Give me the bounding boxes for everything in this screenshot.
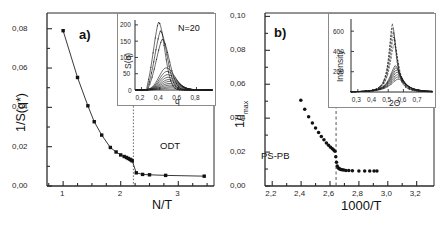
- panel-a-ytick-4: 0,08: [12, 25, 28, 33]
- panel-b-ytick-5: 0,10: [230, 12, 246, 20]
- panel-a-ytick-0: 0,00: [12, 182, 28, 190]
- panel-b-xtick-2: 2,6: [323, 190, 334, 198]
- panel-a-inset-xtick-3: 0,8: [190, 94, 199, 102]
- panel-b-inset-xtick-3: 0,6: [397, 96, 406, 104]
- panel-b-ytick-0: 0,00: [230, 182, 246, 190]
- panel-a-inset-label: N=20: [178, 23, 200, 33]
- panel-b-xtick-0: 2,2: [265, 190, 276, 198]
- panel-a-inset-ytick-0: 0: [128, 87, 132, 95]
- panel-b: 1/Imax 1000/T b) PS-PB 0,000,020,040,060…: [221, 0, 442, 228]
- panel-b-xtick-3: 2,8: [352, 190, 363, 198]
- panel-b-inset-ytick-1: 400: [333, 48, 344, 56]
- panel-a-inset-ytick-4: 200: [120, 21, 131, 29]
- panel-b-ytick-4: 0,08: [230, 46, 246, 54]
- panel-b-inset-xtick-0: 0,3: [352, 96, 361, 104]
- panel-a-ytick-2: 0,04: [12, 103, 28, 111]
- panel-a-inset-ytick-3: 150: [120, 38, 131, 46]
- figure-root: 1/S(q*) N/T a) ODT 0,000,020,040,060,08 …: [0, 0, 442, 228]
- panel-b-inset-xtick-1: 0,4: [367, 96, 376, 104]
- panel-b-ytick-2: 0,04: [230, 114, 246, 122]
- panel-a-xtick-2: 3: [175, 190, 179, 198]
- panel-b-ytick-3: 0,06: [230, 80, 246, 88]
- panel-b-inset: Intensity 2Θ 200400600 0,30,40,50,60,7: [328, 13, 436, 108]
- panel-b-inset-ytick-0: 200: [333, 68, 344, 76]
- panel-b-ytick-1: 0,02: [230, 148, 246, 156]
- panel-a-inset-xtick-2: 0,6: [172, 94, 181, 102]
- panel-b-inset-xtick-4: 0,7: [413, 96, 422, 104]
- panel-a-inset-xtick-1: 0,4: [154, 94, 163, 102]
- panel-a-inset: N=20 S(q) q 050100150200 0,20,40,60,8: [117, 13, 216, 106]
- panel-a-inset-ytick-2: 100: [120, 54, 131, 62]
- panel-a-ytick-1: 0,02: [12, 143, 28, 151]
- panel-b-xtick-5: 3,2: [410, 190, 421, 198]
- panel-a: 1/S(q*) N/T a) ODT 0,000,020,040,060,08 …: [0, 0, 221, 228]
- panel-b-xtick-1: 2,4: [294, 190, 305, 198]
- panel-a-xtick-1: 2: [118, 190, 122, 198]
- panel-a-inset-ytick-1: 50: [123, 70, 130, 78]
- panel-a-ytick-3: 0,06: [12, 64, 28, 72]
- panel-a-xtick-0: 1: [60, 190, 64, 198]
- panel-b-inset-xtick-2: 0,5: [382, 96, 391, 104]
- panel-b-xtick-4: 3,0: [381, 190, 392, 198]
- panel-a-inset-xtick-0: 0,2: [135, 94, 144, 102]
- panel-b-inset-plot: [329, 14, 437, 109]
- panel-b-inset-ytick-2: 600: [333, 28, 344, 36]
